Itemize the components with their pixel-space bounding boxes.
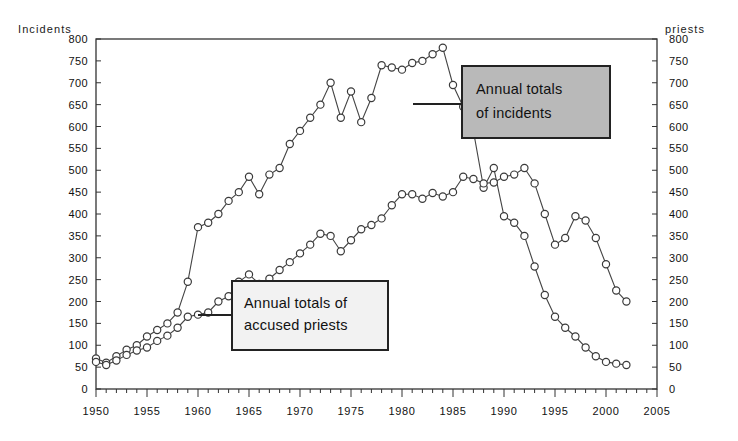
- data-point-marker: [276, 266, 283, 273]
- y-left-tick-50: 50: [75, 361, 88, 373]
- y-right-tick-200: 200: [669, 296, 689, 308]
- data-point-marker: [235, 189, 242, 196]
- y-left-tick-400: 400: [68, 208, 88, 220]
- y-left-tick-350: 350: [68, 230, 88, 242]
- callout-priests-line2: accused priests: [244, 317, 348, 333]
- data-point-marker: [296, 127, 303, 134]
- y-left-tick-200: 200: [68, 296, 88, 308]
- y-axis-right-title: priests: [665, 23, 705, 35]
- data-point-marker: [398, 66, 405, 73]
- data-point-marker: [378, 62, 385, 69]
- y-right-tick-700: 700: [669, 77, 689, 89]
- x-tick-1950: 1950: [83, 405, 110, 417]
- data-point-marker: [388, 64, 395, 71]
- data-point-marker: [521, 164, 528, 171]
- annotation-priests: Annual totals of accused priests: [198, 281, 388, 350]
- x-tick-1960: 1960: [185, 405, 212, 417]
- y-left-tick-700: 700: [68, 77, 88, 89]
- x-tick-1965: 1965: [236, 405, 263, 417]
- callout-incidents-line1: Annual totals: [476, 81, 562, 97]
- data-point-marker: [551, 241, 558, 248]
- y-left-tick-500: 500: [68, 164, 88, 176]
- data-point-marker: [123, 351, 130, 358]
- y-left-tick-650: 650: [68, 99, 88, 111]
- data-point-marker: [358, 119, 365, 126]
- data-point-marker: [205, 219, 212, 226]
- data-point-marker: [174, 309, 181, 316]
- data-point-marker: [347, 237, 354, 244]
- data-point-marker: [602, 358, 609, 365]
- data-point-marker: [164, 332, 171, 339]
- data-point-marker: [562, 234, 569, 241]
- y-right-tick-550: 550: [669, 142, 689, 154]
- data-point-marker: [592, 234, 599, 241]
- data-point-marker: [623, 298, 630, 305]
- y-left-tick-600: 600: [68, 121, 88, 133]
- data-point-marker: [460, 173, 467, 180]
- x-tick-1990: 1990: [491, 405, 518, 417]
- data-point-marker: [245, 173, 252, 180]
- data-point-marker: [378, 215, 385, 222]
- data-point-marker: [317, 101, 324, 108]
- data-point-marker: [592, 353, 599, 360]
- x-axis-tick-labels: 1950195519601965197019751980198519901995…: [83, 405, 671, 417]
- data-point-marker: [511, 171, 518, 178]
- x-tick-1980: 1980: [389, 405, 416, 417]
- data-point-marker: [398, 191, 405, 198]
- data-point-marker: [429, 51, 436, 58]
- y-right-tick-150: 150: [669, 317, 689, 329]
- data-point-marker: [286, 259, 293, 266]
- data-point-marker: [184, 313, 191, 320]
- data-point-marker: [551, 313, 558, 320]
- y-left-tick-450: 450: [68, 186, 88, 198]
- data-point-marker: [449, 189, 456, 196]
- data-point-marker: [490, 179, 497, 186]
- data-point-marker: [439, 193, 446, 200]
- data-point-marker: [245, 271, 252, 278]
- data-point-marker: [572, 213, 579, 220]
- data-point-marker: [154, 337, 161, 344]
- data-point-marker: [368, 94, 375, 101]
- data-point-marker: [154, 326, 161, 333]
- data-point-marker: [337, 114, 344, 121]
- data-point-marker: [347, 88, 354, 95]
- y-left-tick-100: 100: [68, 339, 88, 351]
- data-point-marker: [317, 230, 324, 237]
- data-point-marker: [562, 324, 569, 331]
- y-right-tick-650: 650: [669, 99, 689, 111]
- annotation-incidents: Annual totals of incidents: [413, 66, 610, 138]
- y-right-tick-50: 50: [669, 361, 682, 373]
- data-point-marker: [511, 219, 518, 226]
- data-point-marker: [337, 248, 344, 255]
- data-point-marker: [500, 213, 507, 220]
- y-right-tick-100: 100: [669, 339, 689, 351]
- x-tick-2000: 2000: [593, 405, 620, 417]
- data-point-marker: [541, 210, 548, 217]
- y-right-tick-250: 250: [669, 274, 689, 286]
- data-point-marker: [531, 263, 538, 270]
- y-left-tick-250: 250: [68, 274, 88, 286]
- data-point-marker: [184, 278, 191, 285]
- data-point-marker: [215, 210, 222, 217]
- data-point-marker: [327, 79, 334, 86]
- data-point-marker: [113, 357, 120, 364]
- y-right-tick-400: 400: [669, 208, 689, 220]
- data-point-marker: [256, 191, 263, 198]
- y-left-tick-0: 0: [81, 383, 88, 395]
- y-right-tick-750: 750: [669, 55, 689, 67]
- data-point-marker: [500, 173, 507, 180]
- data-point-marker: [92, 358, 99, 365]
- data-point-marker: [409, 59, 416, 66]
- x-tick-1995: 1995: [542, 405, 569, 417]
- callout-priests-line1: Annual totals of: [244, 295, 348, 311]
- data-point-marker: [174, 324, 181, 331]
- data-point-marker: [307, 241, 314, 248]
- y-right-tick-600: 600: [669, 121, 689, 133]
- data-point-marker: [266, 171, 273, 178]
- data-point-marker: [409, 191, 416, 198]
- y-axis-left-title: Incidents: [18, 23, 72, 35]
- y-axis-right-tick-labels: 0501001502002503003504004505005506006507…: [669, 33, 689, 395]
- callout-box-incidents: [462, 66, 610, 138]
- data-point-marker: [490, 164, 497, 171]
- data-point-marker: [623, 361, 630, 368]
